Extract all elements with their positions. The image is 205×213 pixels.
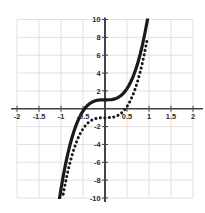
y-tick-label: -4 <box>94 140 101 149</box>
y-tick-label: -6 <box>94 158 101 167</box>
x-tick-label: -2 <box>14 112 21 121</box>
y-tick-label: -10 <box>90 194 101 203</box>
x-tick-label: 2 <box>191 112 195 121</box>
plot-background <box>0 0 205 213</box>
chart-figure: -2-1.5-1-0.50.511.52108642-2-4-6-8-10 <box>0 0 205 213</box>
y-tick-label: 10 <box>92 15 100 24</box>
y-tick-label: 2 <box>96 87 100 96</box>
x-tick-label: -1.5 <box>33 112 46 121</box>
cubic-function-plot: -2-1.5-1-0.50.511.52108642-2-4-6-8-10 <box>0 0 205 213</box>
y-tick-label: 6 <box>96 51 100 60</box>
x-tick-label: 1 <box>147 112 151 121</box>
y-tick-label: -2 <box>94 122 101 131</box>
y-tick-label: -8 <box>94 176 101 185</box>
x-tick-label: -1 <box>58 112 65 121</box>
y-tick-label: 8 <box>96 33 100 42</box>
x-tick-label: -0.5 <box>77 112 90 121</box>
x-tick-label: 0.5 <box>122 112 132 121</box>
x-tick-label: 1.5 <box>166 112 176 121</box>
